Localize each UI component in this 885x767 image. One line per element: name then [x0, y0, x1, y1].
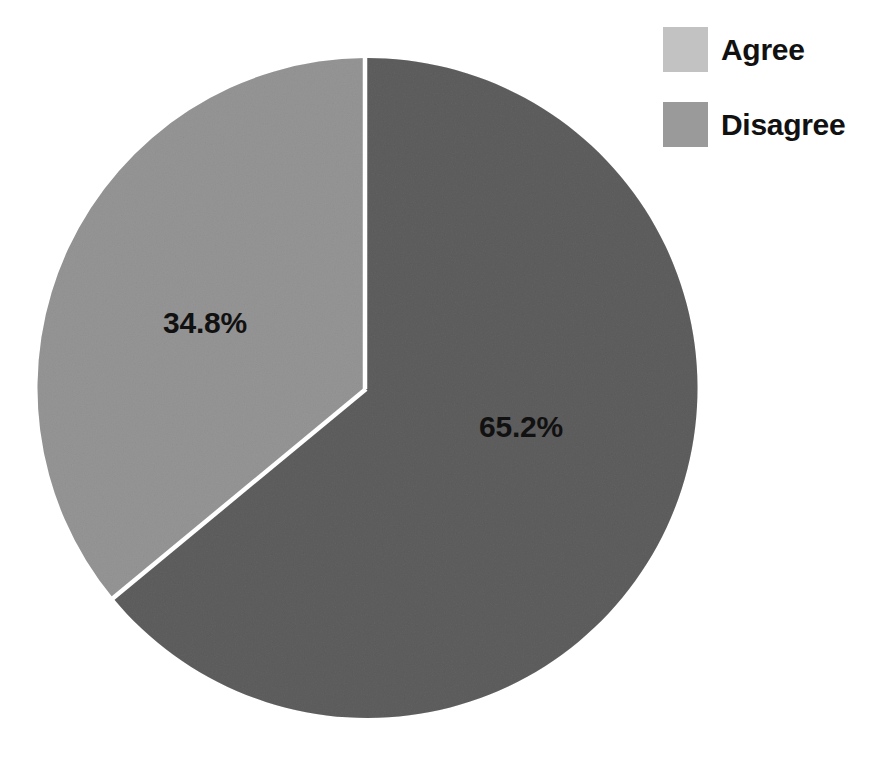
- legend-item-disagree[interactable]: Disagree: [663, 102, 878, 147]
- chart-legend: Agree Disagree: [663, 27, 878, 177]
- legend-label-disagree: Disagree: [721, 110, 845, 140]
- slice-label-agree: 34.8%: [163, 306, 247, 339]
- pie-chart-figure: 34.8% 65.2% Agree Disagree: [0, 0, 885, 767]
- pie-slices-group: [38, 58, 698, 718]
- legend-swatch-agree: [663, 27, 708, 72]
- legend-swatch-disagree: [663, 102, 708, 147]
- legend-label-agree: Agree: [721, 35, 805, 65]
- legend-item-agree[interactable]: Agree: [663, 27, 878, 72]
- slice-label-disagree: 65.2%: [479, 410, 563, 443]
